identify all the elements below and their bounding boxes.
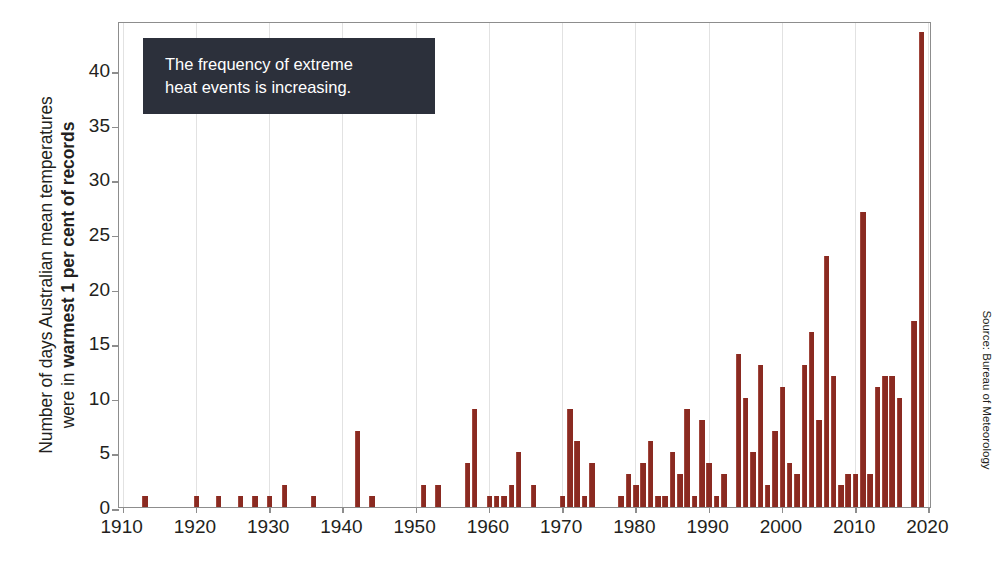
- bar: [355, 431, 361, 507]
- bar: [574, 441, 580, 507]
- callout-line-2: heat events is increasing.: [165, 76, 435, 99]
- x-axis-tick-label: 2000: [746, 516, 816, 538]
- x-axis-tick: [489, 507, 491, 513]
- bar: [640, 463, 646, 507]
- bar: [845, 474, 851, 507]
- x-axis-tick-label: 1920: [160, 516, 230, 538]
- bar: [860, 212, 866, 507]
- bar: [911, 321, 917, 507]
- bar: [472, 409, 478, 507]
- bar: [699, 420, 705, 507]
- x-axis-tick: [562, 507, 564, 513]
- y-axis-tick-label: 5: [70, 442, 110, 464]
- x-axis-tick-label: 1950: [380, 516, 450, 538]
- gridline-vertical: [123, 23, 124, 507]
- bar: [765, 485, 771, 507]
- y-axis-tick: [112, 127, 119, 129]
- bar: [721, 474, 727, 507]
- y-axis-tick-label: 20: [70, 279, 110, 301]
- x-axis-tick: [928, 507, 930, 513]
- bar: [369, 496, 375, 507]
- y-axis-tick: [112, 236, 119, 238]
- bar: [509, 485, 515, 507]
- bar: [889, 376, 895, 507]
- bar: [882, 376, 888, 507]
- x-axis-tick: [635, 507, 637, 513]
- bar: [809, 332, 815, 507]
- bar: [531, 485, 537, 507]
- y-axis-tick: [112, 509, 119, 511]
- bar: [670, 452, 676, 507]
- bar: [501, 496, 507, 507]
- bar: [736, 354, 742, 507]
- bar: [919, 32, 925, 507]
- y-axis-tick: [112, 181, 119, 183]
- bar: [706, 463, 712, 507]
- gridline-vertical: [489, 23, 490, 507]
- bar: [516, 452, 522, 507]
- x-axis-tick: [855, 507, 857, 513]
- bar: [252, 496, 258, 507]
- x-axis-tick: [782, 507, 784, 513]
- source-note: Source: Bureau of Meteorology: [977, 275, 996, 505]
- x-axis-tick: [269, 507, 271, 513]
- bar: [831, 376, 837, 507]
- bar: [216, 496, 222, 507]
- bar: [238, 496, 244, 507]
- bar: [142, 496, 148, 507]
- bar: [282, 485, 288, 507]
- x-axis-tick: [709, 507, 711, 513]
- gridline-vertical: [635, 23, 636, 507]
- bar: [692, 496, 698, 507]
- y-axis-tick-label: 15: [70, 333, 110, 355]
- y-axis-tick-label: 30: [70, 169, 110, 191]
- bar: [780, 387, 786, 507]
- bar: [194, 496, 200, 507]
- bar: [567, 409, 573, 507]
- gridline-vertical: [562, 23, 563, 507]
- bar: [802, 365, 808, 507]
- bar: [560, 496, 566, 507]
- x-axis-tick: [342, 507, 344, 513]
- bar: [655, 496, 661, 507]
- y-axis-tick: [112, 72, 119, 74]
- y-axis-title-line-1: Number of days Australian mean temperatu…: [35, 96, 57, 454]
- x-axis-tick-label: 1930: [233, 516, 303, 538]
- callout-line-1: The frequency of extreme: [165, 53, 435, 76]
- y-axis-tick: [112, 400, 119, 402]
- bar: [772, 431, 778, 507]
- y-axis-tick: [112, 345, 119, 347]
- bar: [677, 474, 683, 507]
- bar: [582, 496, 588, 507]
- bar: [897, 398, 903, 507]
- bar: [853, 474, 859, 507]
- bar: [750, 452, 756, 507]
- bar: [626, 474, 632, 507]
- bar: [824, 256, 830, 507]
- bar: [648, 441, 654, 507]
- x-axis-tick: [196, 507, 198, 513]
- bar: [421, 485, 427, 507]
- callout-box: The frequency of extreme heat events is …: [143, 38, 435, 114]
- bar: [838, 485, 844, 507]
- x-axis-tick-label: 2010: [819, 516, 889, 538]
- x-axis-tick-label: 1960: [453, 516, 523, 538]
- y-axis-tick-label: 10: [70, 388, 110, 410]
- gridline-vertical: [928, 23, 929, 507]
- bar: [743, 398, 749, 507]
- x-axis-tick: [123, 507, 125, 513]
- x-axis-tick-label: 1910: [87, 516, 157, 538]
- bar: [787, 463, 793, 507]
- x-axis-tick: [416, 507, 418, 513]
- bar: [714, 496, 720, 507]
- x-axis-tick-label: 1940: [306, 516, 376, 538]
- y-axis-tick: [112, 291, 119, 293]
- bar: [311, 496, 317, 507]
- y-axis-tick-label: 25: [70, 224, 110, 246]
- y-axis-tick: [112, 454, 119, 456]
- x-axis-tick-label: 2020: [892, 516, 962, 538]
- gridline-vertical: [709, 23, 710, 507]
- chart-figure: Number of days Australian mean temperatu…: [0, 0, 996, 574]
- bar: [267, 496, 273, 507]
- y-axis-tick-label: 35: [70, 115, 110, 137]
